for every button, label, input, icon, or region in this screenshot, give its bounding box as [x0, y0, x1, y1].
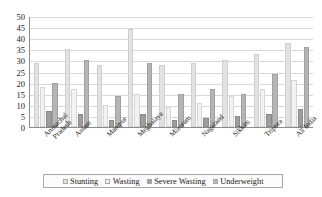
y-axis-tick: 15 [17, 90, 26, 99]
y-axis-tick: 5 [21, 113, 25, 122]
bar[interactable] [40, 87, 45, 127]
x-axis-labels: ArunachalPradeshAssamManipurMeghalayaMiz… [29, 129, 313, 169]
bar[interactable] [197, 103, 202, 127]
y-axis-tick: 30 [17, 57, 26, 66]
bar-chart: 50454035302520151050 ArunachalPradeshAss… [0, 0, 322, 197]
legend-item[interactable]: Wasting [105, 177, 140, 186]
legend-swatch-icon [213, 179, 218, 184]
x-axis-label-cell: Tripura [250, 129, 282, 169]
plot-area [29, 17, 313, 128]
bar[interactable] [166, 107, 171, 127]
bar-group [282, 17, 313, 127]
bar[interactable] [134, 94, 139, 127]
legend-swatch-icon [147, 179, 152, 184]
x-axis-label-cell: Manipur [92, 129, 124, 169]
legend-item[interactable]: Severe Wasting [147, 177, 206, 186]
bar-groups [30, 17, 313, 127]
legend-label: Wasting [113, 177, 140, 186]
legend-label: Severe Wasting [154, 177, 205, 186]
bar-group [187, 17, 218, 127]
bar-group [219, 17, 250, 127]
x-axis-label-cell: Nagaland [187, 129, 219, 169]
bar[interactable] [285, 43, 290, 127]
x-axis-label-cell: Sikkim [218, 129, 250, 169]
bar-group [61, 17, 92, 127]
chart-legend: StuntingWastingSevere WastingUnderweight [43, 174, 283, 188]
x-axis-label-cell: Assam [61, 129, 93, 169]
y-axis: 50454035302520151050 [0, 10, 27, 135]
y-axis-tick: 0 [21, 124, 25, 133]
y-axis-tick: 45 [17, 24, 26, 33]
legend-item[interactable]: Underweight [213, 177, 264, 186]
y-axis-tick: 40 [17, 35, 26, 44]
legend-swatch-icon [63, 179, 68, 184]
bar[interactable] [304, 47, 309, 127]
bar[interactable] [128, 29, 133, 127]
y-axis-tick: 50 [17, 13, 26, 22]
y-axis-tick: 20 [17, 79, 26, 88]
bar[interactable] [103, 105, 108, 127]
legend-item[interactable]: Stunting [63, 177, 99, 186]
y-axis-tick: 25 [17, 68, 26, 77]
y-axis-tick: 10 [17, 102, 26, 111]
bar[interactable] [260, 89, 265, 127]
bar[interactable] [97, 65, 102, 127]
bar[interactable] [291, 80, 296, 127]
bar[interactable] [229, 96, 234, 127]
legend-swatch-icon [105, 179, 110, 184]
legend-label: Underweight [220, 177, 263, 186]
bar-group [250, 17, 281, 127]
x-axis-label-cell: All India [282, 129, 314, 169]
bar-group [30, 17, 61, 127]
bar-group [124, 17, 155, 127]
bar[interactable] [254, 54, 259, 127]
x-axis-label-cell: Mizoram [155, 129, 187, 169]
bar-group [93, 17, 124, 127]
x-axis-label-cell: Meghalaya [124, 129, 156, 169]
bar[interactable] [34, 63, 39, 127]
y-axis-tick: 35 [17, 46, 26, 55]
x-axis-label-cell: ArunachalPradesh [29, 129, 61, 169]
legend-label: Stunting [70, 177, 98, 186]
